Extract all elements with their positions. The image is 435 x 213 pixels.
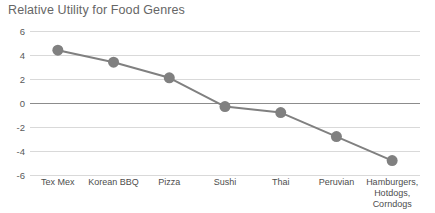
data-point-marker — [52, 45, 63, 56]
y-tick-label: 0 — [20, 98, 25, 109]
plot-area: 6420-2-4-6 — [30, 31, 420, 175]
data-point-marker — [220, 101, 231, 112]
data-point-marker — [275, 107, 286, 118]
y-tick-label: -2 — [17, 122, 25, 133]
data-point-marker — [164, 72, 175, 83]
series-markers — [52, 45, 397, 166]
chart-title: Relative Utility for Food Genres — [8, 3, 185, 17]
data-point-marker — [387, 155, 398, 166]
line-series — [30, 31, 420, 175]
x-tick-label: Hamburgers, Hotdogs, Corndogs — [350, 177, 434, 210]
y-tick-label: -4 — [17, 146, 25, 157]
data-point-marker — [108, 57, 119, 68]
chart-container: Relative Utility for Food Genres 6420-2-… — [0, 0, 435, 213]
y-tick-label: 4 — [20, 50, 25, 61]
y-tick-label: 2 — [20, 74, 25, 85]
y-tick-label: 6 — [20, 26, 25, 37]
gridline — [30, 175, 420, 176]
data-point-marker — [331, 131, 342, 142]
